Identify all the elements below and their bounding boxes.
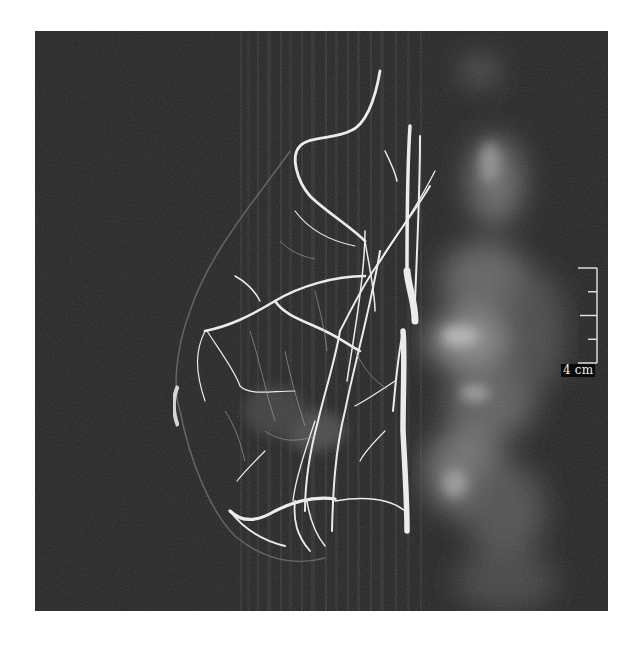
mri-vasculature-render (35, 31, 608, 611)
mri-image (35, 31, 608, 611)
